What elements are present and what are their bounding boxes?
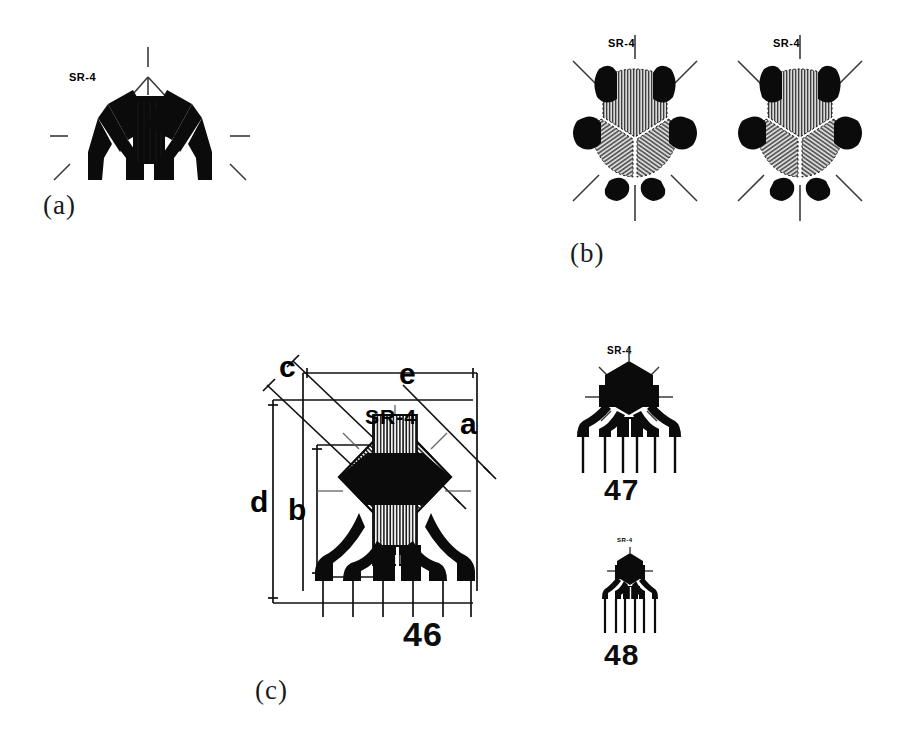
panel-a-gauge-middle-notch bbox=[144, 164, 154, 180]
panel-a-rosette-drawing bbox=[40, 40, 300, 215]
panel-b-right-sr4-label: SR-4 bbox=[773, 37, 800, 49]
panel-c-caption: (c) bbox=[255, 675, 288, 706]
panel-c-grid-diagonal-right bbox=[339, 419, 451, 535]
panel-b-left-drawing bbox=[555, 25, 715, 245]
panel-b-left-axes bbox=[573, 35, 697, 221]
gauge-47-lead-wires bbox=[583, 437, 675, 473]
panel-b-rosette-left: SR-4 bbox=[555, 25, 715, 245]
gauge-47-body bbox=[577, 361, 681, 437]
panel-b-right-grid-top bbox=[768, 69, 832, 137]
gauge-47-sr4-label: SR-4 bbox=[607, 345, 632, 356]
panel-a-gauge-left bbox=[88, 90, 153, 180]
panel-c-grid-vertical bbox=[373, 415, 417, 565]
panel-c: SR-4 c e a d b 46 SR-4 bbox=[255, 345, 725, 725]
dimension-letter-a: a bbox=[460, 407, 477, 441]
panel-a-caption: (a) bbox=[43, 190, 76, 221]
panel-b-right-drawing bbox=[720, 25, 880, 245]
part-number-48: 48 bbox=[604, 638, 639, 672]
gauge-48-body bbox=[602, 553, 658, 599]
panel-b-right-tabs bbox=[738, 66, 862, 201]
panel-c-gauge-46: SR-4 c e a d b 46 bbox=[255, 345, 565, 645]
figure-canvas: SR-4 bbox=[0, 0, 898, 756]
panel-b-caption: (b) bbox=[570, 238, 604, 269]
panel-b-left-grid-lowerleft bbox=[594, 119, 633, 177]
panel-b-rosette-right: SR-4 bbox=[720, 25, 880, 245]
part-number-47: 47 bbox=[604, 473, 639, 507]
panel-a-sr4-label: SR-4 bbox=[69, 71, 96, 83]
panel-b-right-axes bbox=[738, 35, 862, 221]
gauge-47-axis-marks bbox=[585, 349, 673, 437]
panel-a-axis-marks bbox=[50, 47, 250, 180]
dimension-letter-e: e bbox=[399, 357, 416, 391]
dimension-letter-d: d bbox=[250, 485, 268, 519]
panel-a: SR-4 bbox=[40, 40, 300, 240]
panel-b-left-tabs bbox=[573, 66, 697, 201]
panel-c-gauge-48: SR-4 bbox=[555, 535, 705, 695]
panel-b-right-grid-lowerleft bbox=[759, 119, 798, 177]
panel-a-gauge-right bbox=[147, 90, 212, 180]
panel-c-grid-core bbox=[339, 453, 451, 505]
panel-c-gauge-47: SR-4 bbox=[555, 345, 705, 520]
panel-c-main-sr4-label: SR-4 bbox=[365, 405, 417, 429]
panel-b-left-grid-lowerright bbox=[637, 119, 676, 177]
panel-c-lead-tabs bbox=[315, 513, 475, 581]
part-number-46: 46 bbox=[403, 615, 443, 654]
panel-b-left-sr4-label: SR-4 bbox=[608, 37, 635, 49]
panel-c-grid-diagonal-left bbox=[339, 419, 451, 535]
panel-a-gauge-middle bbox=[133, 96, 165, 180]
gauge-48-axis-marks bbox=[607, 547, 653, 597]
gauge-48-lead-wires bbox=[605, 599, 655, 633]
dimension-letter-c: c bbox=[279, 350, 296, 384]
panel-a-gauge-middle-grid bbox=[138, 102, 161, 162]
gauge-48-sr4-label: SR-4 bbox=[617, 537, 633, 543]
panel-b-right-grid-lowerright bbox=[802, 119, 841, 177]
gauge-47-drawing bbox=[555, 345, 705, 485]
panel-b: SR-4 bbox=[555, 25, 885, 295]
panel-c-dimension-lines bbox=[263, 355, 496, 617]
panel-b-left-grid-top bbox=[603, 69, 667, 137]
dimension-letter-b: b bbox=[288, 493, 306, 527]
